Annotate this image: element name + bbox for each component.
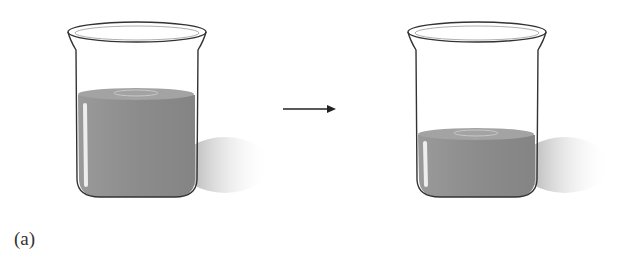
beaker-after: [408, 22, 610, 197]
liquid: [418, 132, 535, 197]
figure-label: (a): [14, 228, 35, 250]
liquid: [78, 92, 195, 197]
right-arrow-icon: [283, 105, 336, 113]
rim: [408, 22, 546, 42]
rim: [68, 22, 206, 42]
figure-canvas: [0, 0, 636, 258]
beaker-before: [68, 22, 270, 197]
